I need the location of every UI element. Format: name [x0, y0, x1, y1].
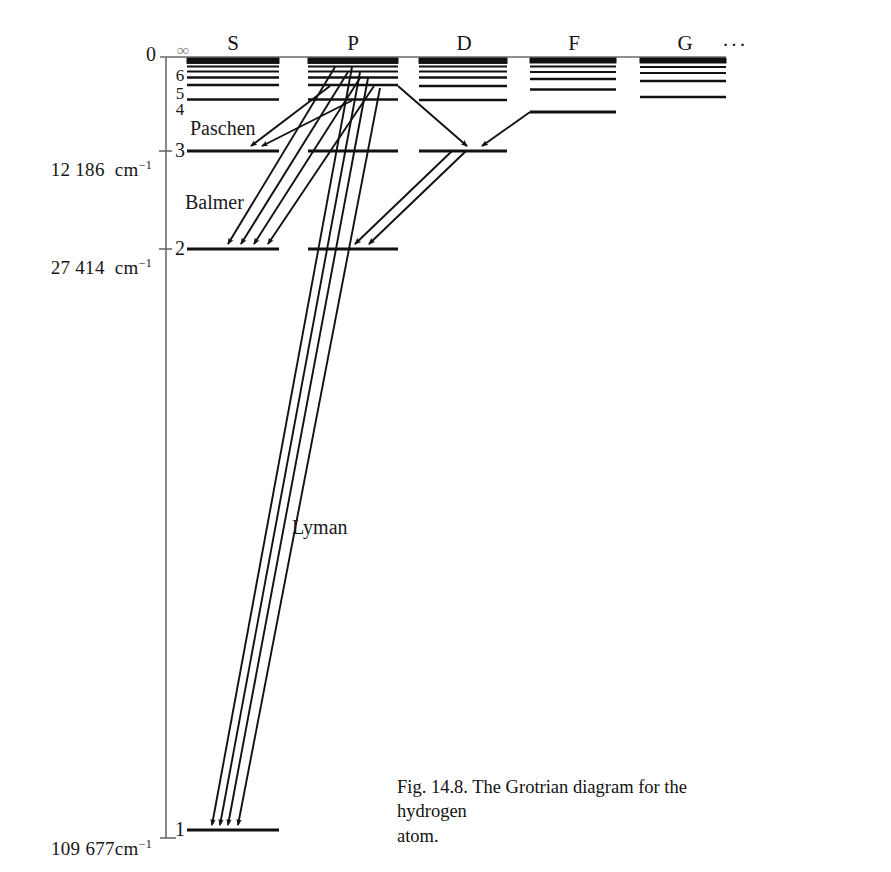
transitions-balmer-p	[355, 151, 466, 244]
n-label-2: 2	[175, 238, 185, 258]
term-value-n2-number: 27 414	[51, 257, 105, 278]
term-value-n3: 12 186 cm−1	[30, 141, 152, 198]
grotrian-diagram-canvas	[0, 0, 891, 872]
series-label-balmer: Balmer	[185, 192, 244, 212]
column-header-p: P	[347, 33, 359, 54]
energy-axis	[159, 57, 205, 838]
series-label-lyman: Lyman	[292, 517, 348, 537]
column-header-d: D	[456, 33, 471, 54]
term-value-n1-number: 109 677	[51, 838, 115, 859]
figure-caption: Fig. 14.8. The Grotrian diagram for the …	[397, 775, 727, 848]
levels-column-G	[640, 58, 726, 97]
n-label-6: 6	[176, 67, 185, 84]
n-label-1: 1	[175, 819, 185, 839]
transitions-paschen-d	[398, 86, 530, 146]
figure-caption-line-2: atom.	[397, 824, 727, 848]
term-value-n3-exponent: −1	[139, 158, 152, 172]
column-header-f: F	[568, 33, 580, 54]
term-value-n1: 109 677cm−1	[31, 820, 152, 872]
term-value-n3-unit: cm	[115, 159, 139, 180]
transitions-lyman	[212, 67, 380, 825]
transitions-balmer	[228, 67, 374, 244]
column-header-g: G	[677, 33, 692, 54]
term-value-n3-number: 12 186	[51, 159, 105, 180]
column-header-s: S	[227, 33, 239, 54]
n-label-3: 3	[175, 140, 185, 160]
term-value-n1-exponent: −1	[139, 837, 152, 851]
n-label-4: 4	[176, 101, 185, 118]
term-value-n2-unit: cm	[115, 257, 139, 278]
term-value-n2: 27 414 cm−1	[30, 239, 152, 296]
figure-caption-line-1: Fig. 14.8. The Grotrian diagram for the …	[397, 775, 727, 824]
term-value-n2-exponent: −1	[139, 256, 152, 270]
term-value-n1-unit: cm	[115, 838, 139, 859]
axis-infinity-label: ∞	[177, 42, 189, 59]
series-label-paschen: Paschen	[190, 118, 256, 138]
column-header-ellipsis: ···	[722, 35, 747, 56]
levels-column-F	[530, 58, 616, 112]
axis-zero-label: 0	[146, 44, 156, 64]
grotrian-figure: S P D F G ··· 0 ∞ 6 5 4 3 2 1 12 186 cm−…	[0, 0, 891, 872]
